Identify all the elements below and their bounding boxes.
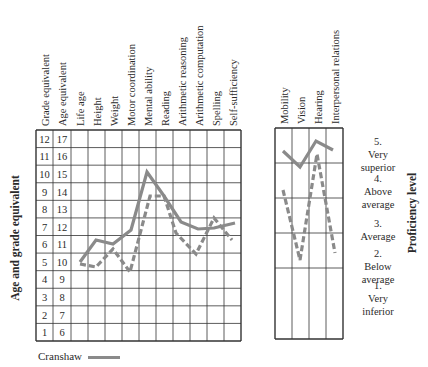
column-header: Arithmetic computation xyxy=(194,25,205,126)
chart-canvas: Grade equivalentAge equivalentLife ageHe… xyxy=(0,0,428,367)
grade-label: 7 xyxy=(42,222,47,233)
column-header: Mental ability xyxy=(143,66,154,126)
age-label: 10 xyxy=(57,257,68,268)
grade-label: 8 xyxy=(42,204,47,215)
age-label: 17 xyxy=(57,134,68,145)
proficiency-level-label: inferior xyxy=(362,306,394,317)
legend: Cranshaw xyxy=(38,350,120,362)
age-label: 8 xyxy=(59,292,64,303)
proficiency-level-label: Very xyxy=(368,149,389,160)
age-label: 7 xyxy=(59,310,64,321)
y-axis-title-left: Age and grade equivalent xyxy=(9,175,22,301)
column-header: Motor coordination xyxy=(126,43,137,126)
column-header: Interpersonal relations xyxy=(330,30,341,124)
column-header: Spelling xyxy=(211,90,222,126)
grade-label: 12 xyxy=(39,134,50,145)
age-label: 11 xyxy=(57,239,67,250)
age-label: 15 xyxy=(57,169,68,180)
column-header: Arithmetic reasoning xyxy=(177,36,188,126)
proficiency-level-label: Above xyxy=(364,186,392,197)
proficiency-level-label: Average xyxy=(361,231,396,242)
grade-label: 10 xyxy=(39,169,50,180)
proficiency-level-label: 5. xyxy=(374,136,382,147)
column-header: Vision xyxy=(296,96,307,124)
column-header: Self-sufficiency xyxy=(228,58,239,126)
age-label: 6 xyxy=(59,327,64,338)
cranshaw-line-left xyxy=(80,172,235,262)
left-row-labels: 12171116101591481371261151049382716 xyxy=(39,134,68,338)
grade-label: 1 xyxy=(42,327,47,338)
proficiency-level-label: average xyxy=(362,199,395,210)
proficiency-level-label: 3. xyxy=(374,218,382,229)
grade-label: 3 xyxy=(42,292,47,303)
proficiency-level-label: Below xyxy=(364,261,392,272)
proficiency-level-label: 2. xyxy=(374,248,382,259)
proficiency-level-label: Very xyxy=(368,293,389,304)
grade-label: 2 xyxy=(42,310,47,321)
grade-label: 5 xyxy=(42,257,47,268)
column-header: Life age xyxy=(75,91,86,126)
column-header: Grade equivalent xyxy=(40,54,51,126)
proficiency-level-label: 4. xyxy=(374,173,382,184)
grade-label: 11 xyxy=(39,151,49,162)
legend-solid-swatch xyxy=(88,356,120,359)
age-label: 14 xyxy=(57,187,68,198)
age-label: 13 xyxy=(57,204,68,215)
column-header: Reading xyxy=(160,90,171,126)
column-header: Age equivalent xyxy=(57,62,68,126)
age-label: 12 xyxy=(57,222,68,233)
column-header: Hearing xyxy=(313,89,324,124)
proficiency-level-label: superior xyxy=(361,162,396,173)
age-label: 9 xyxy=(59,274,64,285)
proficiency-level-label: 1. xyxy=(374,280,382,291)
legend-label: Cranshaw xyxy=(38,350,82,362)
age-label: 16 xyxy=(57,151,68,162)
grade-label: 4 xyxy=(42,274,48,285)
right-column-headers: MobilityVisionHearingInterpersonal relat… xyxy=(279,30,341,124)
grade-label: 6 xyxy=(42,239,47,250)
proficiency-level-labels: 5.Verysuperior4.Aboveaverage3.Average2.B… xyxy=(361,136,396,317)
right-grid xyxy=(275,128,343,339)
grade-label: 9 xyxy=(42,187,47,198)
left-column-headers: Grade equivalentAge equivalentLife ageHe… xyxy=(40,25,239,126)
column-header: Mobility xyxy=(279,86,290,124)
y-axis-title-right: Proficiency level xyxy=(406,173,419,254)
column-header: Height xyxy=(92,97,103,126)
column-header: Weight xyxy=(109,96,120,126)
